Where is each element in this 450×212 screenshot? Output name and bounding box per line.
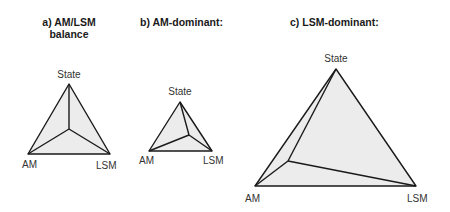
am-label-b: AM [139, 155, 154, 166]
triangle-c: State AM LSM [245, 53, 428, 204]
triangle-a: State AM LSM [22, 69, 117, 171]
state-label-a: State [57, 69, 81, 80]
am-label-c: AM [245, 193, 260, 204]
lsm-label-a: LSM [96, 160, 117, 171]
state-label-b: State [168, 86, 192, 97]
lsm-label-c: LSM [407, 193, 428, 204]
diagram-canvas: State AM LSM State AM LSM State AM LSM [0, 0, 450, 212]
state-label-c: State [324, 53, 348, 64]
lsm-label-b: LSM [203, 155, 224, 166]
triangle-b: State AM LSM [139, 86, 224, 166]
am-label-a: AM [22, 159, 37, 170]
